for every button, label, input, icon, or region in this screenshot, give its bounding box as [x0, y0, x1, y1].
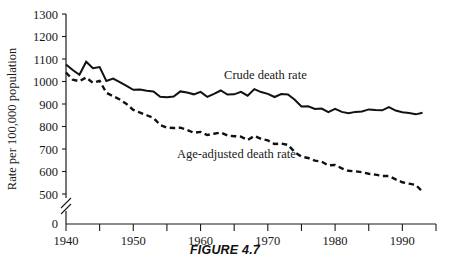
y-axis-title: Rate per 100,000 population: [5, 47, 19, 190]
series-line-age-adjusted-death-rate: [66, 73, 423, 192]
y-tick-label-700: 700: [39, 143, 58, 157]
y-tick-label-900: 900: [39, 98, 58, 112]
mortality-rate-line-chart: 50060070080090010001100120013000 1940195…: [0, 0, 450, 266]
y-tick-label-600: 600: [39, 165, 58, 179]
y-tick-label-1000: 1000: [33, 75, 58, 89]
y-tick-label-800: 800: [39, 120, 58, 134]
figure-container: 50060070080090010001100120013000 1940195…: [0, 0, 450, 266]
series-annotations: Crude death rateAge-adjusted death rate: [177, 68, 307, 161]
y-tick-label-1300: 1300: [33, 8, 58, 22]
y-tick-label-500: 500: [39, 188, 58, 202]
figure-caption: FIGURE 4.7: [0, 243, 450, 257]
axes-group: [61, 14, 436, 224]
age-adjusted-death-rate-label: Age-adjusted death rate: [177, 147, 296, 161]
y-tick-label-zero: 0: [52, 217, 58, 231]
crude-death-rate-label: Crude death rate: [224, 68, 307, 82]
y-tick-label-1200: 1200: [33, 30, 58, 44]
y-tick-label-1100: 1100: [33, 53, 58, 67]
y-axis-ticks: 50060070080090010001100120013000: [33, 8, 66, 232]
